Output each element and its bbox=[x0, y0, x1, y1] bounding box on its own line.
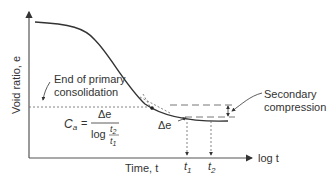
t2-label: t2 bbox=[208, 160, 216, 175]
delta-e-label: Δe bbox=[158, 119, 171, 131]
formula-numerator: Δe bbox=[98, 108, 111, 120]
secondary-tangent-line bbox=[140, 97, 170, 113]
secondary-label-line1: Secondary bbox=[264, 88, 317, 100]
formula-log: log bbox=[91, 128, 106, 140]
consolidation-diagram: Void ratio, e Time, t log t End of prima… bbox=[0, 0, 335, 175]
intersection-dot bbox=[150, 106, 154, 110]
formula-equals: = bbox=[81, 117, 87, 129]
y-axis-label: Void ratio, e bbox=[10, 56, 22, 114]
log-axis-label: log t bbox=[258, 152, 279, 164]
formula-lhs: Ca bbox=[64, 117, 78, 132]
secondary-label-line2: compression bbox=[264, 101, 326, 113]
formula-t2: t2 bbox=[110, 124, 117, 135]
x-axis-label: Time, t bbox=[125, 162, 158, 174]
t1-label: t1 bbox=[184, 160, 192, 175]
end-primary-label-line2: consolidation bbox=[54, 86, 118, 98]
consolidation-curve bbox=[35, 22, 228, 121]
secondary-compression-formula: Ca = Δe log t2 t1 bbox=[64, 108, 119, 147]
end-primary-pointer bbox=[43, 82, 50, 100]
end-primary-label-line1: End of primary bbox=[54, 73, 126, 85]
secondary-pointer bbox=[232, 93, 262, 111]
formula-t1: t1 bbox=[110, 136, 117, 147]
